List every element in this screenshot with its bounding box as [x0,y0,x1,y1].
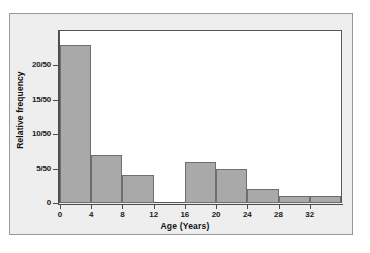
y-axis-tick-label: 20/50 [32,60,51,69]
x-axis-tick [154,205,155,209]
x-axis-tick [185,205,186,209]
x-axis-tick-label: 8 [120,210,124,219]
y-axis-tick-label: 5/50 [36,164,51,173]
y-axis-tick [53,134,58,135]
histogram-bar [122,175,153,203]
y-axis-tick [53,203,58,204]
x-axis-tick-label: 20 [212,210,221,219]
x-axis-title: Age (Years) [0,221,370,231]
y-axis-tick [53,100,58,101]
x-axis-tick [279,205,280,209]
histogram-bar [279,196,310,203]
x-axis-tick-label: 0 [58,210,62,219]
histogram-bar [91,155,122,203]
chart-page: 05/5010/5015/5020/50 048121620242832 Age… [0,0,370,253]
x-axis-tick [216,205,217,209]
histogram-bar [216,169,247,203]
y-axis-tick [53,169,58,170]
x-axis-tick-label: 28 [274,210,283,219]
x-axis-tick-label: 4 [89,210,93,219]
histogram-bars [60,31,341,203]
x-axis-tick-label: 12 [149,210,158,219]
histogram-bar [60,45,91,203]
y-axis-tick-label: 10/50 [32,129,51,138]
y-axis-tick-labels: 05/5010/5015/5020/50 [0,0,51,253]
y-axis-tick-label: 0 [47,198,51,207]
y-axis-tick-label: 15/50 [32,95,51,104]
x-axis-tick [91,205,92,209]
x-axis-tick [60,205,61,209]
histogram-bar [247,189,278,203]
x-axis-tick-label: 16 [180,210,189,219]
y-axis-tick [53,65,58,66]
y-axis-line [58,30,59,204]
x-axis-tick [310,205,311,209]
x-axis-tick [122,205,123,209]
histogram-bar [310,196,341,203]
histogram-bar [185,162,216,203]
x-axis-tick-label: 32 [305,210,314,219]
x-axis-tick [247,205,248,209]
y-axis-title: Relative frequency [15,45,25,175]
x-axis-line [58,204,343,205]
x-axis-tick-label: 24 [243,210,252,219]
